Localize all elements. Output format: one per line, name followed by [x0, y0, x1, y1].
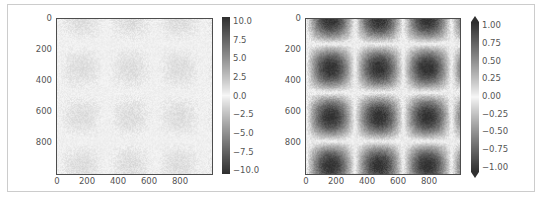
y-tick: 0 — [271, 14, 301, 23]
heatmap-right-image — [306, 19, 460, 174]
colorbar-tick: −1.00 — [482, 163, 508, 172]
x-tick: 600 — [390, 177, 406, 186]
colorbar-tick: 10.0 — [233, 17, 252, 26]
colorbar-tick: −5.0 — [233, 129, 254, 138]
y-tick: 200 — [22, 45, 52, 54]
colorbar-tick: 0.00 — [482, 92, 501, 101]
y-tick: 800 — [271, 138, 301, 147]
colorbar-tick: −0.25 — [482, 110, 508, 119]
heatmap-right — [305, 18, 461, 175]
x-tick: 0 — [303, 177, 308, 186]
colorbar-tick: 0.25 — [482, 74, 501, 83]
colorbar-tick: −0.50 — [482, 127, 508, 136]
colorbar-extend-bottom — [471, 172, 479, 178]
y-tick: 0 — [22, 14, 52, 23]
colorbar-tick: 0.50 — [482, 57, 501, 66]
colorbar-right — [471, 22, 479, 172]
x-tick: 800 — [172, 177, 188, 186]
colorbar-tick: 7.5 — [233, 36, 247, 45]
heatmap-left-image — [57, 19, 212, 174]
colorbar-left-gradient — [222, 17, 230, 174]
colorbar-tick: −7.5 — [233, 148, 254, 157]
y-tick: 600 — [271, 107, 301, 116]
colorbar-tick: 1.00 — [482, 21, 501, 30]
x-tick: 0 — [54, 177, 59, 186]
colorbar-tick: 0.75 — [482, 39, 501, 48]
y-tick: 600 — [22, 107, 52, 116]
colorbar-tick: 2.5 — [233, 73, 247, 82]
colorbar-tick: 0.0 — [233, 92, 247, 101]
y-tick: 800 — [22, 138, 52, 147]
x-tick: 200 — [79, 177, 95, 186]
y-tick: 400 — [271, 76, 301, 85]
y-tick: 200 — [271, 45, 301, 54]
x-tick: 800 — [421, 177, 437, 186]
x-tick: 600 — [141, 177, 157, 186]
colorbar-tick: −2.5 — [233, 110, 254, 119]
colorbar-tick: 5.0 — [233, 54, 247, 63]
colorbar-right-gradient — [471, 22, 479, 172]
y-tick: 400 — [22, 76, 52, 85]
x-tick: 400 — [110, 177, 126, 186]
x-tick: 400 — [359, 177, 375, 186]
heatmap-left — [56, 18, 213, 175]
colorbar-left — [222, 17, 230, 174]
colorbar-tick: −10.0 — [233, 166, 259, 175]
x-tick: 200 — [328, 177, 344, 186]
colorbar-tick: −0.75 — [482, 145, 508, 154]
